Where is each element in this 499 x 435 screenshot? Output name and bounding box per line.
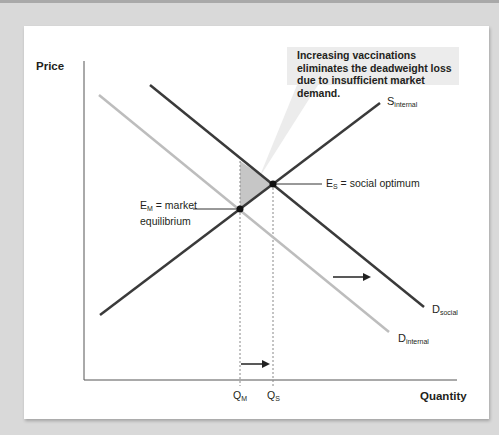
market-equilibrium-dot [237, 206, 244, 213]
y-axis-label: Price [36, 60, 64, 72]
callout-box: Increasing vaccinations eliminates the d… [287, 47, 459, 85]
qs-tick-label: QS [267, 389, 280, 402]
deadweight-loss-area [240, 161, 273, 209]
qm-tick-label: QM [233, 389, 247, 402]
demand-internal-label: Dinternal [398, 332, 429, 345]
x-axis-label: Quantity [420, 390, 467, 402]
demand-shift-arrow [333, 273, 371, 281]
market-equilibrium-label: EM = market equilibrium [140, 199, 197, 227]
social-optimum-label: ES = social optimum [326, 177, 420, 193]
quantity-shift-arrow [241, 360, 270, 368]
demand-social-label: Dsocial [432, 303, 458, 316]
supply-internal-label: Sinternal [387, 95, 417, 108]
social-optimum-dot [270, 181, 277, 188]
